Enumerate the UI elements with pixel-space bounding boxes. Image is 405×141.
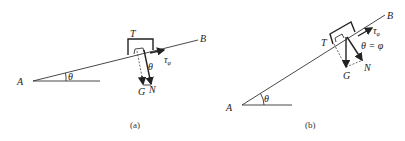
theta-force-label: θ — [148, 61, 153, 72]
block-t-label: T — [321, 37, 328, 48]
figure-b: θ A B T τφ θ = φ G N (b) — [225, 10, 393, 130]
tau-label: τφ — [373, 25, 381, 37]
caption-b: (b) — [305, 120, 316, 130]
figure-a: θ A B T τφ θ G N (a) — [16, 28, 206, 130]
dashed-projection-line — [346, 60, 363, 67]
theta-phi-label: θ = φ — [361, 40, 384, 51]
tau-arrow — [358, 28, 372, 36]
normal-label: N — [148, 84, 157, 95]
block-t — [330, 22, 355, 44]
incline-line-ab — [242, 15, 385, 105]
point-b-label: B — [387, 10, 393, 21]
point-a-label: A — [225, 102, 233, 113]
gravity-arrow — [142, 76, 143, 84]
diagram-canvas: θ A B T τφ θ G N (a) θ A B — [0, 0, 405, 141]
theta-incline-label: θ — [264, 93, 269, 104]
angle-arc — [66, 73, 67, 81]
caption-a: (a) — [130, 120, 140, 130]
tau-label: τφ — [164, 54, 172, 66]
normal-arrow — [347, 37, 362, 60]
block-t-label: T — [130, 28, 137, 39]
dashed-projection-line — [334, 44, 346, 67]
normal-label: N — [363, 62, 372, 73]
point-a-label: A — [16, 76, 24, 87]
point-b-label: B — [200, 33, 206, 44]
block-t — [128, 39, 153, 55]
gravity-label: G — [138, 86, 145, 97]
theta-incline-label: θ — [68, 71, 73, 82]
gravity-label: G — [343, 70, 350, 81]
incline-line-ab — [33, 40, 198, 81]
